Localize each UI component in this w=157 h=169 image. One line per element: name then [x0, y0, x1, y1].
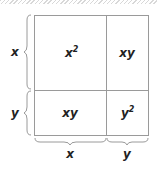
left-brace-x	[24, 15, 31, 89]
area-model-diagram: x2 xy xy y2 x y x y	[0, 0, 157, 169]
cell-top-left: x2	[64, 45, 79, 60]
cell-top-right: xy	[118, 46, 136, 60]
cell-bottom-right: y2	[121, 105, 135, 120]
bottom-label-y: y	[123, 147, 132, 161]
left-brace-y	[24, 91, 31, 135]
left-label-y: y	[11, 106, 20, 120]
bottom-label-x: x	[65, 147, 75, 161]
cell-bottom-left: xy	[61, 106, 79, 120]
left-label-x: x	[10, 45, 20, 59]
outer-square	[35, 16, 149, 136]
bottom-brace-y	[107, 138, 148, 145]
bottom-brace-x	[35, 138, 106, 145]
